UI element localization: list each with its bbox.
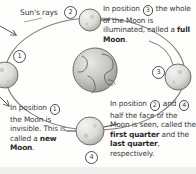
emphasised-term: first quarter bbox=[110, 130, 159, 139]
inline-position-number: 4 bbox=[179, 100, 190, 111]
earth-body bbox=[73, 48, 117, 93]
position-marker-4: 4 bbox=[85, 151, 98, 164]
leader-fullmoon-caption-to-moon3 bbox=[149, 41, 173, 65]
inline-position-number: 3 bbox=[143, 5, 154, 16]
page-footer-strip bbox=[0, 167, 196, 174]
caption-quarters: In position 2 and 4 half the face of the… bbox=[110, 99, 196, 158]
sun-rays-label: Sun's rays bbox=[20, 8, 58, 18]
emphasised-term: last quarter bbox=[110, 139, 158, 148]
moon-position-2 bbox=[79, 9, 101, 31]
emphasised-term: full Moon bbox=[103, 25, 190, 44]
caption-new-moon: In position 1 the Moon is invisible. Thi… bbox=[10, 103, 72, 153]
inline-position-number: 1 bbox=[50, 104, 61, 115]
position-marker-2: 2 bbox=[64, 6, 77, 19]
emphasised-term: new Moon bbox=[10, 134, 56, 153]
position-marker-1: 1 bbox=[13, 50, 26, 63]
position-marker-3: 3 bbox=[152, 66, 165, 79]
inline-position-number: 2 bbox=[150, 100, 161, 111]
moon-position-1 bbox=[0, 62, 18, 88]
moon-position-4 bbox=[76, 117, 104, 145]
moon-position-3 bbox=[165, 64, 191, 90]
moon-phases-diagram: Sun's rays 1 2 3 4 In position 3 the who… bbox=[0, 0, 196, 174]
sun-rays-leader bbox=[24, 18, 42, 22]
caption-full-moon: In position 3 the whole of the Moon is i… bbox=[103, 4, 195, 44]
